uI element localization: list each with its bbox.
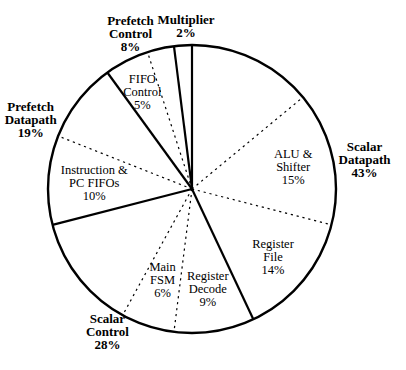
group-label-scalar-datapath: ScalarDatapath43% [339, 139, 392, 180]
group-label-prefetch-datapath: PrefetchDatapath19% [5, 99, 58, 140]
figure-canvas: ALU &Shifter15%RegisterFile14%ScalarData… [0, 0, 406, 370]
pie-chart: ALU &Shifter15%RegisterFile14%ScalarData… [0, 0, 406, 370]
group-label-scalar-control: ScalarControl28% [86, 311, 129, 352]
group-label-prefetch-control: PrefetchControl8% [107, 13, 154, 54]
group-label-multiplier: Multiplier2% [158, 12, 215, 40]
